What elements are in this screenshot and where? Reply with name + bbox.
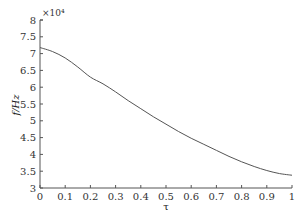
y-axis-label: f/Hz: [10, 94, 21, 117]
x-tick-label: 0.7: [208, 191, 224, 202]
y-tick-label: 4.5: [20, 132, 36, 143]
y-axis: 33.544.555.566.577.58: [20, 15, 43, 194]
y-tick-label: 7.5: [20, 31, 36, 42]
x-tick-label: 0.2: [82, 191, 98, 202]
x-tick-label: 1: [289, 191, 295, 202]
x-tick-label: 0: [37, 191, 43, 202]
x-tick-label: 0.8: [234, 191, 250, 202]
y-tick-label: 3: [30, 183, 36, 194]
x-tick-label: 0.4: [133, 191, 149, 202]
x-tick-label: 0.1: [57, 191, 73, 202]
x-tick-label: 0.6: [183, 191, 199, 202]
x-tick-label: 0.3: [108, 191, 124, 202]
y-tick-label: 6: [30, 82, 36, 93]
y-tick-label: 5: [30, 115, 36, 126]
y-tick-label: 4: [30, 149, 36, 160]
x-tick-label: 0.9: [259, 191, 275, 202]
x-axis-label: τ: [163, 201, 169, 212]
chart: 00.10.20.30.40.50.60.70.80.91 33.544.555…: [0, 0, 301, 219]
series-line-f: [40, 48, 292, 176]
y-axis-multiplier: ×10⁴: [42, 8, 65, 18]
y-tick-label: 6.5: [20, 65, 36, 76]
y-tick-label: 5.5: [20, 99, 36, 110]
y-tick-label: 8: [30, 15, 36, 26]
y-tick-label: 7: [30, 48, 36, 59]
plot-area: [40, 48, 292, 176]
x-axis: 00.10.20.30.40.50.60.70.80.91: [37, 185, 295, 202]
y-tick-label: 3.5: [20, 166, 36, 177]
